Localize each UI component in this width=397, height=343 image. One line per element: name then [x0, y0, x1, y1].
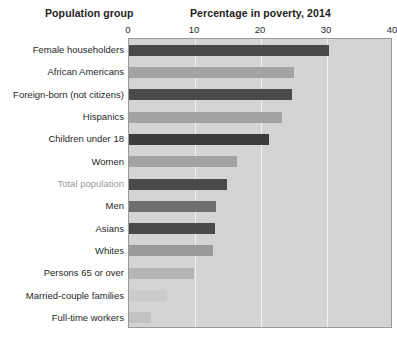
bar	[129, 223, 215, 234]
x-tick-0: 0	[125, 24, 130, 35]
category-label: Married-couple families	[0, 290, 124, 301]
x-axis-tick-labels: 010203040	[0, 24, 397, 38]
chart-header: Population group Percentage in poverty, …	[0, 0, 397, 22]
category-label: Female householders	[0, 44, 124, 55]
bar	[129, 268, 194, 279]
bar	[129, 156, 237, 167]
gridline-30	[327, 39, 328, 327]
bar	[129, 89, 292, 100]
category-label: Full-time workers	[0, 312, 124, 323]
bar	[129, 67, 294, 78]
bar	[129, 290, 167, 301]
category-label-column: Female householdersAfrican AmericansFore…	[0, 38, 124, 328]
category-label: Foreign-born (not citizens)	[0, 89, 124, 100]
x-tick-40: 40	[387, 24, 397, 35]
category-label: Men	[0, 200, 124, 211]
bar	[129, 179, 227, 190]
bar	[129, 312, 151, 323]
bar	[129, 45, 329, 56]
bar	[129, 112, 282, 123]
population-group-title: Population group	[45, 7, 134, 19]
x-tick-30: 30	[321, 24, 332, 35]
category-label: African Americans	[0, 66, 124, 77]
bar	[129, 201, 216, 212]
plot-area	[128, 38, 392, 328]
percentage-in-poverty-title: Percentage in poverty, 2014	[190, 7, 331, 19]
x-tick-10: 10	[189, 24, 200, 35]
category-label: Hispanics	[0, 111, 124, 122]
bar	[129, 134, 269, 145]
category-label: Persons 65 or over	[0, 267, 124, 278]
category-label: Children under 18	[0, 133, 124, 144]
bar	[129, 245, 213, 256]
x-tick-20: 20	[255, 24, 266, 35]
category-label: Asians	[0, 223, 124, 234]
category-label: Total population	[0, 178, 124, 189]
category-label: Whites	[0, 245, 124, 256]
poverty-bar-chart: Population group Percentage in poverty, …	[0, 0, 397, 343]
category-label: Women	[0, 156, 124, 167]
gridline-20	[261, 39, 262, 327]
